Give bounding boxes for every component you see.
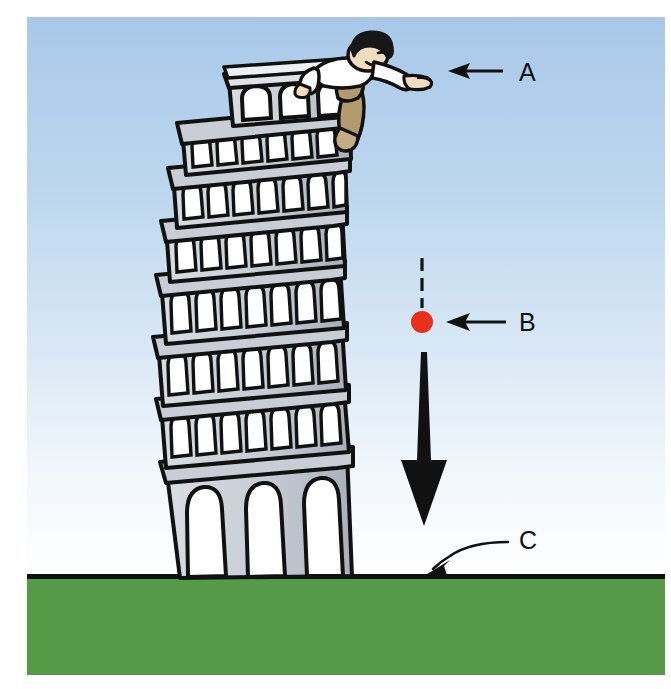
belfry-arch-1 — [242, 86, 271, 120]
tier-4-arch — [326, 223, 343, 260]
tier-7-arch — [246, 409, 266, 451]
tier-5-arch — [246, 285, 266, 327]
tier-3-arch — [283, 175, 303, 211]
ground-field — [27, 578, 665, 675]
tier-7-arch — [221, 411, 241, 453]
tier-3-arch — [333, 171, 346, 207]
tier-7-arch — [321, 403, 341, 445]
tier-6-arch — [168, 353, 188, 395]
label-a-text: A — [519, 58, 536, 86]
tower-base-arch-2 — [246, 483, 285, 577]
tower-base-arch-3 — [304, 478, 343, 576]
tier-6-arch — [218, 349, 238, 391]
tier-5-arch — [221, 287, 241, 329]
tier-7-arch — [271, 407, 291, 449]
tier-5-arch — [296, 281, 316, 323]
tower-base-arch-1 — [187, 487, 226, 577]
tier-6-arch — [193, 351, 213, 393]
tier-5-arch — [271, 283, 291, 325]
tier-6-arch — [268, 345, 288, 387]
label-b-text: B — [519, 308, 536, 336]
label-c-text: C — [519, 526, 537, 554]
tier-5-arch — [321, 279, 341, 321]
tier-7-arch — [296, 405, 316, 447]
tier-6-arch — [293, 343, 313, 385]
tier-5-arch — [196, 289, 216, 331]
tier-5-arch — [171, 291, 191, 333]
illustration-canvas: A B C — [0, 0, 671, 689]
man-bracing-hand — [295, 84, 310, 98]
tier-6-arch — [318, 341, 338, 383]
illustration-svg: A B C — [0, 0, 671, 689]
falling-ball — [411, 311, 433, 333]
tier-3-arch — [308, 173, 328, 209]
tier-6-arch — [243, 347, 263, 389]
tier-7-arch — [171, 415, 191, 457]
tier-7-arch — [196, 413, 216, 455]
